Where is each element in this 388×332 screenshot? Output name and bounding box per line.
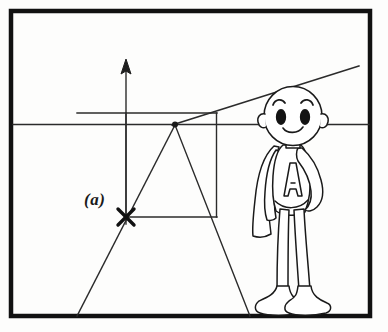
vanishing-point-dot bbox=[172, 122, 178, 128]
perspective-diagram bbox=[0, 0, 388, 332]
left-eye bbox=[277, 110, 286, 124]
figure-canvas: (a) bbox=[0, 0, 388, 332]
left-leg bbox=[277, 209, 289, 290]
head bbox=[264, 87, 322, 146]
figure-label-a: (a) bbox=[84, 190, 105, 210]
left-ear bbox=[258, 114, 266, 128]
right-ear bbox=[320, 114, 328, 128]
right-eye bbox=[301, 110, 310, 124]
page-background bbox=[0, 0, 388, 332]
